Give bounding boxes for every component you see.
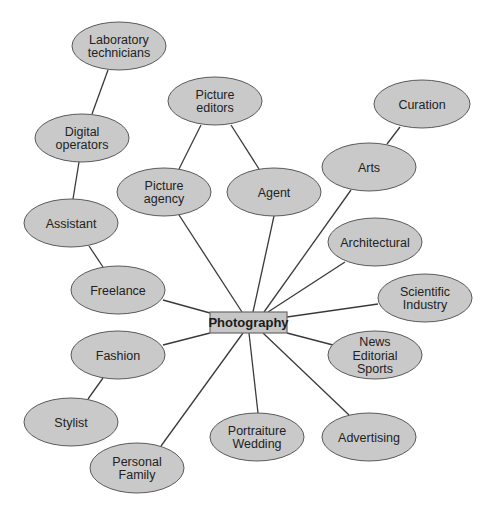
edge-agent-to-photography [253, 216, 274, 312]
node-label: Fashion [96, 349, 141, 363]
mind-map-diagram: LaboratorytechniciansDigitaloperatorsAss… [0, 0, 493, 513]
edge-scientific-industry-to-photography [287, 304, 378, 317]
node-freelance: Freelance [71, 266, 165, 314]
center-node-photography: Photography [208, 312, 289, 333]
node-scientific-industry: ScientificIndustry [378, 274, 472, 322]
node-label: agency [144, 192, 185, 206]
node-label: Stylist [54, 416, 88, 430]
node-agent: Agent [227, 168, 321, 216]
node-digital-operators: Digitaloperators [35, 114, 129, 162]
node-label: Family [119, 468, 157, 482]
node-stylist: Stylist [24, 398, 118, 446]
node-label: News [359, 335, 390, 349]
node-label: operators [56, 138, 109, 152]
edge-picture-editors-to-agent [231, 125, 259, 169]
node-laboratory-technicians: Laboratorytechnicians [72, 22, 166, 70]
node-label: Freelance [90, 284, 146, 298]
node-assistant: Assistant [24, 199, 118, 247]
node-advertising: Advertising [322, 413, 416, 461]
edge-digital-operators-to-assistant [73, 162, 79, 199]
node-label: Portraiture [228, 424, 286, 438]
node-label: Industry [403, 298, 448, 312]
node-label: Editorial [352, 349, 397, 363]
node-label: Curation [398, 98, 445, 112]
edge-portraiture-wedding-to-photography [249, 333, 258, 413]
node-portraiture-wedding: PortraitureWedding [210, 413, 304, 461]
node-label: Agent [258, 186, 291, 200]
edge-curation-to-arts [387, 127, 400, 144]
node-curation: Curation [374, 80, 470, 128]
node-label: Architectural [340, 236, 409, 250]
node-personal-family: PersonalFamily [90, 443, 184, 493]
node-fashion: Fashion [71, 331, 165, 379]
node-label: Personal [112, 455, 161, 469]
edge-assistant-to-freelance [89, 246, 103, 267]
edge-freelance-to-photography [163, 300, 210, 313]
node-label: Advertising [338, 431, 400, 445]
node-label: Picture [145, 179, 184, 193]
node-label: editors [196, 101, 234, 115]
node-label: technicians [88, 46, 151, 60]
edge-picture-agency-to-photography [179, 215, 242, 312]
node-news-editorial-sports: NewsEditorialSports [328, 331, 422, 379]
node-label: Wedding [232, 437, 281, 451]
node-picture-editors: Pictureeditors [168, 77, 262, 125]
edge-fashion-to-photography [163, 333, 210, 345]
node-label: Arts [358, 161, 380, 175]
node-arts: Arts [322, 143, 416, 191]
node-label: Sports [357, 362, 393, 376]
edge-news-editorial-sports-to-photography [287, 333, 333, 345]
edge-fashion-to-stylist [88, 378, 103, 399]
node-picture-agency: Pictureagency [117, 168, 211, 216]
nodes: LaboratorytechniciansDigitaloperatorsAss… [24, 22, 472, 493]
node-label: Digital [65, 125, 100, 139]
node-label: Assistant [46, 217, 97, 231]
center-label: Photography [208, 315, 289, 330]
edge-laboratory-technicians-to-digital-operators [92, 70, 108, 114]
node-label: Scientific [400, 285, 450, 299]
edge-picture-editors-to-picture-agency [179, 125, 201, 169]
node-label: Laboratory [89, 33, 150, 47]
node-label: Picture [196, 88, 235, 102]
edge-architectural-to-photography [268, 262, 345, 312]
node-architectural: Architectural [328, 218, 422, 266]
